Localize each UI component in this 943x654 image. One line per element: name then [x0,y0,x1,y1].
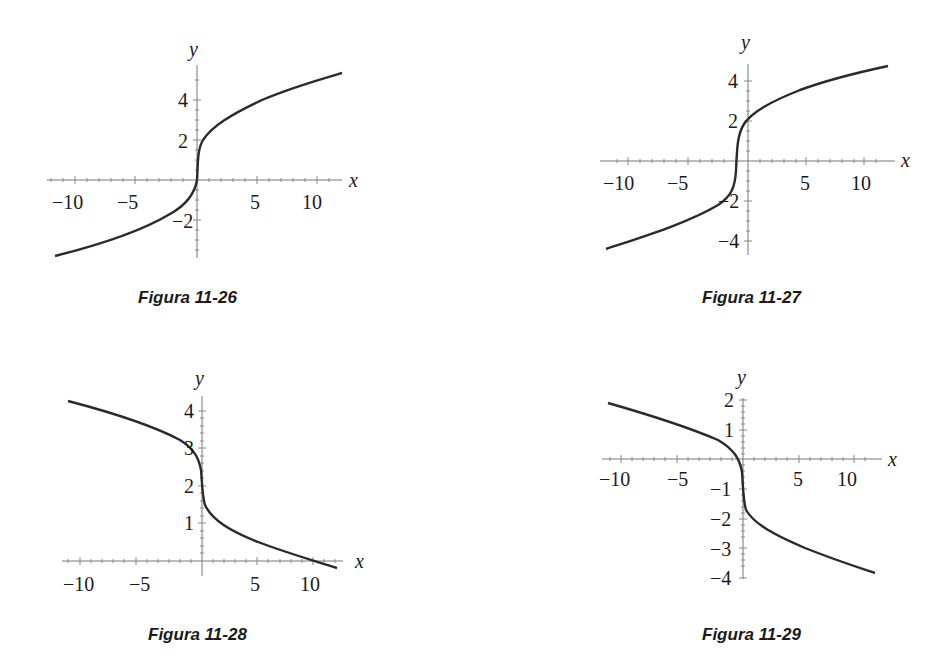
caption: Figura 11-29 [702,625,801,645]
tick-label: 1 [724,419,734,441]
tick-label: −10 [599,468,630,490]
x-axis-label: x [887,448,897,470]
tick-label: −3 [710,538,731,560]
tick-label: −1 [710,478,731,500]
plot-11-29: y x −10 −5 5 10 2 1 −1 −2 −3 −4 [0,0,943,654]
tick-label: 2 [724,389,734,411]
tick-label: 10 [837,468,857,490]
tick-label: −4 [710,567,731,589]
figure-11-29: y x −10 −5 5 10 2 1 −1 −2 −3 −4 Figura 1… [0,0,943,654]
y-axis-label: y [735,366,746,389]
tick-label: 5 [793,468,803,490]
tick-label: −5 [667,468,688,490]
tick-label: −2 [710,508,731,530]
